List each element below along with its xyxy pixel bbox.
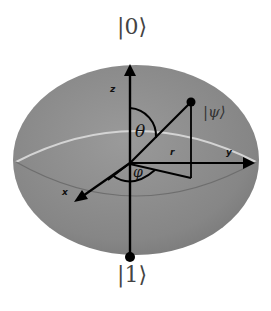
- x-axis-label: x: [62, 187, 68, 197]
- sphere: [13, 65, 259, 255]
- north-state-label: |0⟩: [117, 14, 147, 39]
- radius-label: r: [170, 147, 174, 157]
- south-state-label: |1⟩: [117, 262, 147, 287]
- theta-label: θ: [135, 121, 145, 141]
- z-axis-label: z: [110, 84, 115, 94]
- phi-label: φ: [133, 164, 143, 180]
- state-label: |ψ⟩: [203, 103, 226, 121]
- y-axis-label: y: [226, 147, 232, 157]
- south-pole-dot: [125, 252, 135, 262]
